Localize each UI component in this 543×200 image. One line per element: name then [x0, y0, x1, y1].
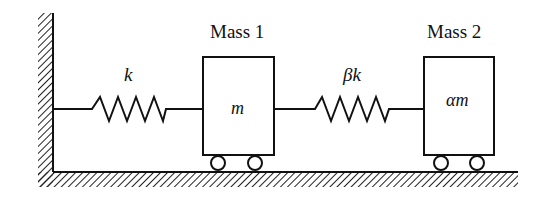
spring-k — [53, 97, 203, 121]
spring-k-label: k — [124, 64, 133, 85]
mass-spring-diagram: k Mass 1 m βk Mass 2 αm — [0, 0, 543, 200]
wall — [38, 13, 53, 187]
wheel-icon — [248, 156, 262, 170]
floor — [38, 172, 518, 187]
mass-2-value: αm — [446, 90, 468, 110]
mass-2-title: Mass 2 — [427, 21, 481, 42]
mass-1-value: m — [231, 98, 244, 118]
wheel-icon — [470, 156, 484, 170]
mass-2 — [424, 57, 494, 170]
wheel-icon — [434, 156, 448, 170]
mass-1-title: Mass 1 — [210, 21, 264, 42]
spring-beta-k-label: βk — [342, 64, 361, 85]
wheel-icon — [211, 156, 225, 170]
spring-beta-k — [274, 97, 424, 121]
